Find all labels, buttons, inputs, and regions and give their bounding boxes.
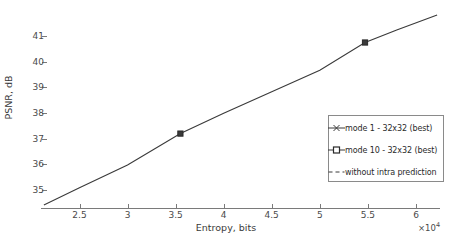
x-tick-label: 3	[125, 210, 131, 220]
x-tick-label: 2.5	[72, 210, 86, 220]
legend-label-mode-1: mode 1 - 32x32 (best)	[345, 124, 432, 133]
x-tick-label: 6	[413, 210, 419, 220]
legend-entry-without-intra-prediction: without intra prediction	[329, 161, 445, 183]
x-tick-label: 5.5	[361, 210, 375, 220]
x-tick-mark	[368, 204, 369, 209]
x-tick-mark	[416, 204, 417, 209]
x-axis-label: Entropy, bits	[0, 222, 452, 233]
legend-label-without-intra-prediction: without intra prediction	[345, 168, 437, 177]
legend-entry-mode-1: mode 1 - 32x32 (best)	[329, 117, 445, 139]
x-tick-mark	[128, 204, 129, 209]
square-marker-icon	[328, 144, 345, 156]
x-tick-mark	[176, 204, 177, 209]
x-tick-label: 4.5	[265, 210, 279, 220]
rate-distortion-chart: 2.533.544.555.56 35363738394041 Entropy,…	[0, 0, 452, 243]
x-tick-label: 3.5	[168, 210, 182, 220]
dashed-line-icon	[328, 166, 345, 178]
x-tick-label: 4	[221, 210, 227, 220]
legend-entry-mode-10: mode 10 - 32x32 (best)	[329, 139, 445, 161]
x-axis-multiplier-base: ×10	[418, 223, 436, 233]
legend-label-mode-10: mode 10 - 32x32 (best)	[345, 146, 437, 155]
data-point-marker	[362, 40, 367, 45]
y-tick-label: 35	[4, 185, 44, 195]
y-axis-label: PSNR, dB	[3, 53, 14, 143]
x-tick-label: 5	[317, 210, 323, 220]
x-tick-mark	[272, 204, 273, 209]
cross-marker-icon	[328, 122, 345, 134]
x-tick-mark	[80, 204, 81, 209]
x-axis-multiplier-exponent: 4	[436, 221, 440, 229]
data-point-marker	[178, 131, 183, 136]
y-tick-label: 36	[4, 159, 44, 169]
x-axis-spine	[41, 208, 440, 209]
x-tick-mark	[320, 204, 321, 209]
x-tick-mark	[224, 204, 225, 209]
y-tick-label: 41	[4, 31, 44, 41]
x-axis-multiplier: ×104	[418, 221, 440, 233]
legend-box: mode 1 - 32x32 (best) mode 10 - 32x32 (b…	[328, 115, 444, 182]
